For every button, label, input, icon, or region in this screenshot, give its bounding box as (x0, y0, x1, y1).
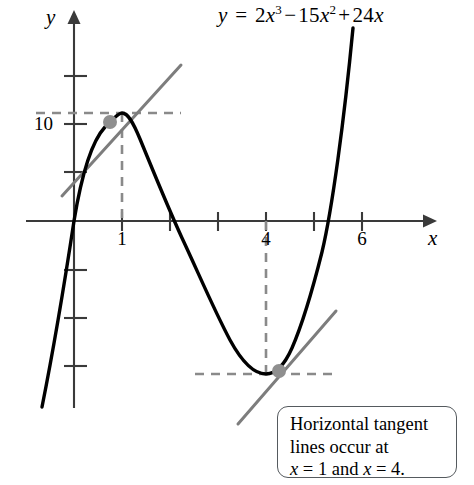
equation-term3-variable: x (374, 3, 384, 27)
x-tick-label-4: 4 (251, 228, 281, 250)
equation-term2-variable: x (320, 3, 330, 27)
x-tick-label-1: 1 (107, 228, 137, 250)
x-tick-label-6: 6 (347, 228, 377, 250)
equation-minus-sign: − (282, 3, 298, 27)
callout-line-3-end: = 4. (371, 459, 405, 479)
equation-lhs: y (218, 3, 228, 27)
x-axis (26, 215, 437, 228)
equation-equals: = (233, 3, 249, 27)
x-axis-label: x (428, 226, 437, 251)
tangent-lines (62, 65, 336, 424)
y-axis-label: y (46, 5, 55, 30)
local-minimum-point (272, 364, 286, 378)
cubic-curve (42, 28, 353, 407)
equation-term3-coefficient: 24 (353, 3, 375, 27)
callout-line-2: lines occur at (290, 436, 446, 459)
callout-line-3-middle: = 1 and (298, 459, 363, 479)
y-tick-label-10: 10 (25, 113, 53, 135)
callout-line-1: Horizontal tangent (290, 413, 446, 436)
equation-plus-sign: + (336, 3, 352, 27)
callout-note: Horizontal tangent lines occur at x = 1 … (277, 406, 457, 478)
equation-label: y = 2x3−15x2+24x (218, 2, 384, 28)
equation-term2-coefficient: 15 (298, 3, 320, 27)
reference-lines (36, 113, 337, 374)
local-maximum-point (103, 115, 117, 129)
y-axis (68, 10, 81, 408)
equation-term1-coefficient: 2 (255, 3, 266, 27)
tangent-line-at-local-maximum (62, 65, 181, 196)
callout-line-3: x = 1 and x = 4. (290, 458, 446, 481)
callout-variable-1: x (290, 459, 298, 479)
equation-term1-variable: x (266, 3, 276, 27)
